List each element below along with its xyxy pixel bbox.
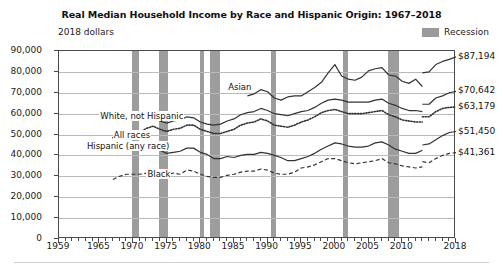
chart-title: Real Median Household Income by Race and… — [0, 9, 503, 20]
end-value-label: $51,450 — [458, 126, 495, 136]
y-axis-tick-label: 20,000 — [0, 191, 42, 201]
end-value-label: $41,361 — [458, 147, 495, 157]
y-axis-tick-label: 0 — [0, 233, 42, 243]
y-axis-tick-label: 80,000 — [0, 66, 42, 76]
series-line — [422, 132, 456, 145]
series-line — [146, 142, 422, 161]
x-axis-tick-label: 1990 — [255, 241, 278, 251]
legend-item-recession: Recession — [444, 27, 489, 37]
x-axis-tick-label: 1965 — [87, 241, 110, 251]
y-axis-unit-note: 2018 dollars — [58, 27, 114, 37]
series-line — [146, 99, 422, 125]
series-annotation: White, not Hispanic — [99, 111, 184, 121]
y-axis-tick-label: 30,000 — [0, 170, 42, 180]
x-axis-tick-label: 2000 — [322, 241, 345, 251]
y-axis-tick-label: 90,000 — [0, 45, 42, 55]
y-axis-tick-label: 70,000 — [0, 87, 42, 97]
footer-divider — [14, 262, 489, 263]
series-annotation: All races — [113, 130, 151, 140]
y-axis-tick-label: 10,000 — [0, 212, 42, 222]
x-axis-tick-label: 2005 — [356, 241, 379, 251]
recession-swatch-icon — [422, 28, 439, 37]
series-line — [422, 91, 456, 104]
plot-area: AsianWhite, not HispanicAll racesHispani… — [58, 50, 455, 238]
chart-page: Real Median Household Income by Race and… — [0, 0, 503, 272]
x-axis-tick-label: 2018 — [444, 241, 467, 251]
series-annotation: Black — [146, 169, 171, 179]
series-line — [422, 57, 456, 73]
y-axis-tick-label: 60,000 — [0, 108, 42, 118]
x-axis-tick-label: 1980 — [188, 241, 211, 251]
series-line — [422, 153, 456, 163]
x-axis-tick-label: 1959 — [47, 241, 70, 251]
y-axis-tick-label: 50,000 — [0, 129, 42, 139]
x-axis-tick-label: 1985 — [221, 241, 244, 251]
x-axis-tick-label: 1995 — [289, 241, 312, 251]
series-annotation: Hispanic (any race) — [86, 141, 170, 151]
series-annotation: Asian — [227, 82, 252, 92]
end-value-label: $87,194 — [458, 51, 495, 61]
end-value-label: $70,642 — [458, 85, 495, 95]
end-value-label: $63,179 — [458, 101, 495, 111]
x-axis-tick-label: 2010 — [390, 241, 413, 251]
series-line — [247, 65, 422, 101]
series-line — [422, 107, 456, 117]
x-axis-tick-label: 1970 — [121, 241, 144, 251]
legend: Recession — [422, 27, 489, 37]
x-axis-tick-label: 1975 — [154, 241, 177, 251]
y-axis-tick-label: 40,000 — [0, 149, 42, 159]
